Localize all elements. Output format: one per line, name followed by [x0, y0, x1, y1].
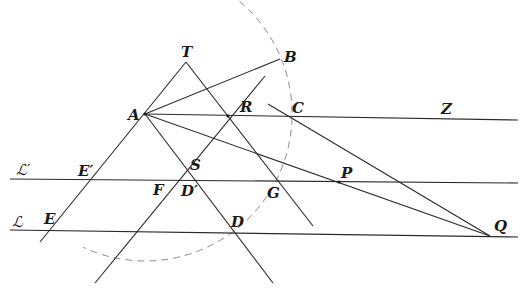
- label-Z: Z: [440, 100, 453, 118]
- construction-circle-arc: [61, 0, 292, 261]
- geometry-diagram: TBARCZℒ′E′SFD′GPℒEDQ: [0, 0, 525, 292]
- label-Q: Q: [494, 217, 507, 235]
- label-F: F: [152, 181, 165, 199]
- label-G: G: [267, 184, 280, 202]
- line-A-B: [145, 59, 280, 114]
- label-D: D: [230, 213, 244, 231]
- line-T-A-E: [40, 62, 186, 242]
- point-R: [226, 114, 229, 117]
- line-L: [10, 230, 518, 237]
- label-S: S: [190, 156, 201, 174]
- line-A-P-Q: [145, 114, 490, 236]
- label-L: ℒ: [12, 213, 24, 231]
- label-T: T: [181, 43, 194, 61]
- label-R: R: [239, 98, 252, 116]
- label-E: E: [43, 210, 56, 228]
- line-A-C-Z: [145, 114, 518, 120]
- label-P: P: [340, 164, 353, 182]
- label-L-prime: ℒ′: [16, 161, 31, 179]
- line-C-Q: [268, 104, 490, 236]
- label-D-prime: D′: [180, 182, 198, 200]
- line-T-R-G: [186, 62, 313, 226]
- point-A: [143, 112, 146, 115]
- label-A: A: [126, 106, 140, 124]
- label-C: C: [292, 99, 304, 117]
- label-B: B: [283, 48, 297, 66]
- label-E-prime: E′: [77, 162, 93, 180]
